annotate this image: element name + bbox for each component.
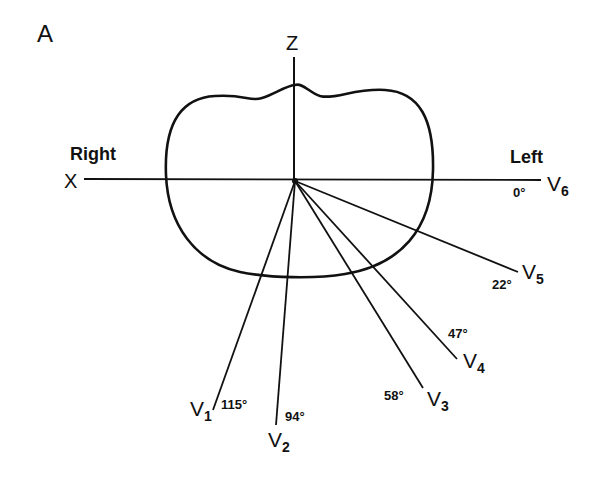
lead-v2-label: V2 xyxy=(268,429,290,454)
lead-v5-angle: 22° xyxy=(492,278,512,291)
panel-label: A xyxy=(37,22,53,46)
heart-outline xyxy=(166,84,433,277)
lead-v3-angle: 58° xyxy=(384,389,404,402)
lead-v4-angle: 47° xyxy=(448,327,468,340)
origin-dot xyxy=(292,178,298,184)
lead-v1-angle: 115° xyxy=(221,398,247,411)
z-axis-label: Z xyxy=(286,33,298,53)
lead-v2-line xyxy=(276,181,295,425)
lead-v6-label: V6 xyxy=(547,173,569,198)
lead-v1-line xyxy=(213,181,295,410)
lead-v3-label: V3 xyxy=(427,388,449,413)
x-axis xyxy=(84,179,541,180)
left-label: Left xyxy=(510,148,543,166)
lead-v6-angle: 0° xyxy=(513,186,525,199)
lead-v3-line xyxy=(295,181,423,388)
x-axis-label: X xyxy=(64,171,77,191)
lead-v1-label: V1 xyxy=(190,398,212,423)
lead-v5-label: V5 xyxy=(522,261,544,286)
right-label: Right xyxy=(70,145,116,163)
lead-v2-angle: 94° xyxy=(285,410,305,423)
lead-v4-label: V4 xyxy=(463,350,485,375)
lead-v4-line xyxy=(295,181,457,359)
lead-v5-line xyxy=(295,181,518,272)
